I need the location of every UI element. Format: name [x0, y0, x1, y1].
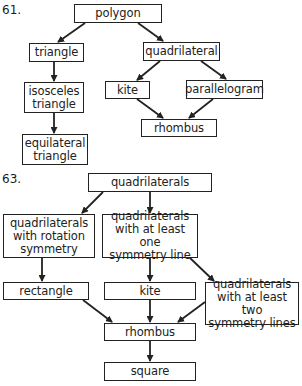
- arrow-one-line-two-lines: [190, 258, 214, 281]
- arrow-layer: [0, 0, 302, 386]
- arrow-quadrilateral-parallelogram: [201, 61, 226, 79]
- arrow-polygon-quadrilateral: [138, 23, 163, 41]
- arrow-quads-rotation: [82, 192, 103, 213]
- arrow-polygon-triangle: [58, 23, 85, 42]
- arrow-quadrilateral-kite: [137, 61, 160, 80]
- arrow-two-lines-rhombus: [178, 302, 205, 322]
- arrow-kite-rhombus: [137, 99, 163, 118]
- arrow-parallelogram-rhombus: [189, 99, 213, 118]
- arrow-rectangle-rhombus: [83, 300, 112, 322]
